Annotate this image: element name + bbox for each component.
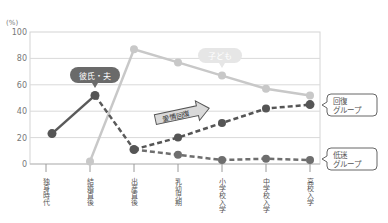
x-axis-ticks (46, 164, 310, 172)
svg-text:彼氏・夫: 彼氏・夫 (79, 71, 111, 81)
svg-text:グループ: グループ (333, 105, 362, 115)
label-recovery-group: 回復 グループ (322, 94, 377, 116)
line-chart: (%) 0 20 40 60 80 100 独身時代 結婚直後 出産直後 乳幼児… (0, 0, 388, 223)
svg-text:出産直後: 出産直後 (130, 177, 139, 206)
svg-text:乳幼児期: 乳幼児期 (174, 177, 183, 207)
svg-text:回復: 回復 (333, 96, 348, 106)
y-axis-unit: (%) (6, 19, 18, 27)
svg-text:小学校入学: 小学校入学 (218, 177, 227, 213)
y-axis-ticks: 0 20 40 60 80 100 (12, 28, 27, 169)
svg-text:40: 40 (17, 107, 27, 116)
svg-text:低迷: 低迷 (333, 150, 348, 160)
svg-text:子ども: 子ども (208, 52, 232, 61)
svg-text:100: 100 (12, 28, 27, 37)
label-low-group: 低迷 グループ (322, 148, 377, 170)
svg-text:高校入学: 高校入学 (306, 177, 315, 206)
svg-text:0: 0 (22, 160, 27, 169)
svg-text:中学校入学: 中学校入学 (262, 177, 271, 213)
plot-area (30, 32, 320, 164)
svg-text:独身時代: 独身時代 (42, 177, 51, 207)
svg-text:20: 20 (17, 134, 27, 143)
svg-text:グループ: グループ (333, 159, 362, 169)
svg-text:60: 60 (17, 81, 27, 90)
x-axis-labels: 独身時代 結婚直後 出産直後 乳幼児期 小学校入学 中学校入学 高校入学 (42, 177, 315, 213)
svg-text:80: 80 (17, 54, 27, 63)
svg-text:結婚直後: 結婚直後 (86, 177, 95, 206)
